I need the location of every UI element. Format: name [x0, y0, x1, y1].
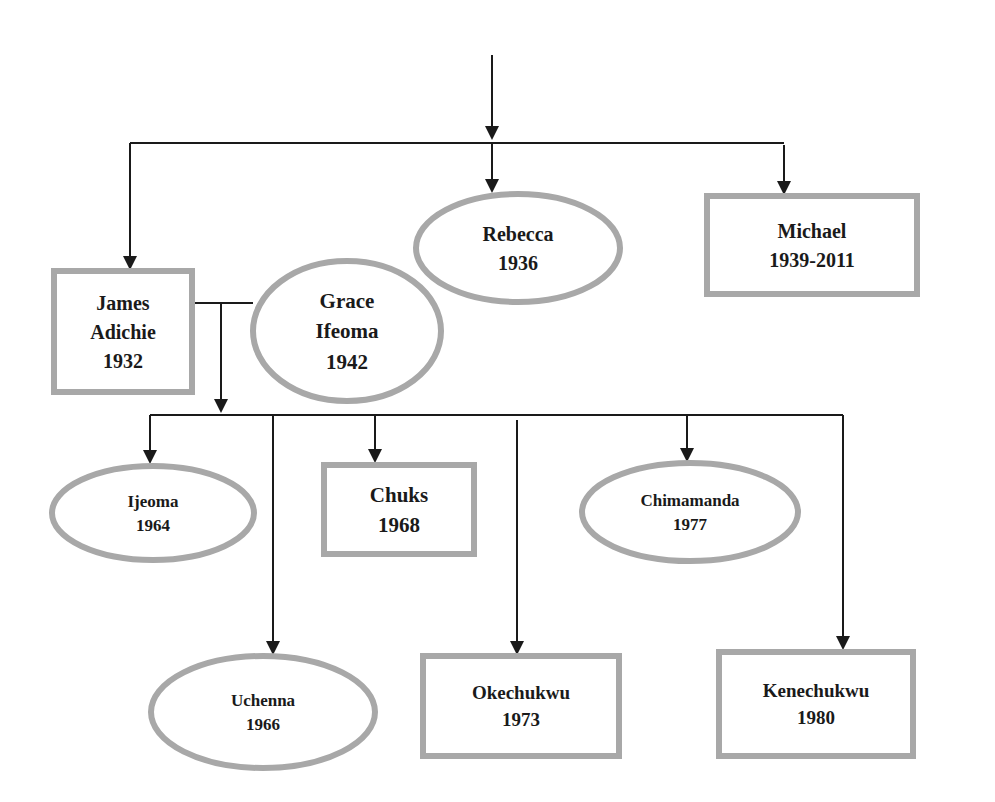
- person-name: James: [96, 292, 150, 314]
- person-name: Chuks: [370, 483, 428, 507]
- arrow-down-icon: [777, 181, 791, 195]
- arrow-down-icon: [485, 179, 499, 193]
- person-year: 1936: [498, 252, 538, 274]
- edge-to-uchenna: [266, 415, 280, 655]
- arrow-down-icon: [680, 448, 694, 462]
- person-year: 1968: [378, 513, 420, 537]
- person-node-rebecca: Rebecca1936: [416, 194, 620, 302]
- connector-lines: [123, 55, 850, 655]
- family-tree-diagram: JamesAdichie1932GraceIfeoma1942Rebecca19…: [0, 0, 995, 802]
- person-name: Ijeoma: [128, 492, 179, 511]
- edge-to-chuks: [368, 415, 382, 463]
- rect-node-shape: [324, 465, 474, 554]
- arrow-down-icon: [123, 256, 137, 270]
- person-name: Okechukwu: [472, 682, 571, 703]
- person-name: Grace: [320, 289, 375, 313]
- person-name: Kenechukwu: [763, 680, 870, 701]
- edge-to-rebecca: [485, 143, 499, 193]
- arrow-down-icon: [485, 126, 499, 140]
- person-nodes: JamesAdichie1932GraceIfeoma1942Rebecca19…: [52, 194, 917, 768]
- edge-root-drop: [485, 55, 499, 140]
- person-node-kenechukwu: Kenechukwu1980: [719, 652, 913, 756]
- person-node-uchenna: Uchenna1966: [151, 656, 375, 768]
- person-node-james: JamesAdichie1932: [54, 271, 192, 392]
- edge-to-okechukwu: [510, 420, 524, 655]
- person-name: Uchenna: [231, 691, 296, 710]
- person-node-chuks: Chuks1968: [324, 465, 474, 554]
- person-node-chimamanda: Chimamanda1977: [582, 463, 798, 561]
- edge-couple-drop: [214, 303, 228, 413]
- rect-node-shape: [423, 656, 619, 756]
- rect-node-shape: [707, 196, 917, 294]
- person-year: 1966: [246, 715, 280, 734]
- arrow-down-icon: [510, 641, 524, 655]
- person-name: Michael: [778, 220, 847, 242]
- person-name: Rebecca: [482, 223, 553, 245]
- ellipse-node-shape: [416, 194, 620, 302]
- edge-to-michael: [777, 145, 791, 195]
- person-year: 1980: [797, 707, 835, 728]
- person-node-ijeoma: Ijeoma1964: [52, 466, 254, 560]
- person-name: Chimamanda: [640, 491, 740, 510]
- person-year: 1964: [136, 516, 171, 535]
- person-node-michael: Michael1939-2011: [707, 196, 917, 294]
- edge-to-kenechukwu: [836, 415, 850, 650]
- ellipse-node-shape: [582, 463, 798, 561]
- edge-to-chimamanda: [680, 415, 694, 462]
- edge-to-ijeoma: [143, 415, 157, 464]
- person-year: 1932: [103, 350, 143, 372]
- arrow-down-icon: [214, 399, 228, 413]
- person-name: Adichie: [90, 321, 156, 343]
- edge-to-james: [123, 143, 137, 270]
- arrow-down-icon: [266, 641, 280, 655]
- person-name: Ifeoma: [316, 319, 379, 343]
- arrow-down-icon: [143, 450, 157, 464]
- person-year: 1973: [502, 709, 540, 730]
- person-node-okechukwu: Okechukwu1973: [423, 656, 619, 756]
- arrow-down-icon: [368, 449, 382, 463]
- person-year: 1939-2011: [769, 249, 855, 271]
- rect-node-shape: [719, 652, 913, 756]
- arrow-down-icon: [836, 636, 850, 650]
- ellipse-node-shape: [52, 466, 254, 560]
- person-year: 1942: [326, 350, 368, 374]
- ellipse-node-shape: [151, 656, 375, 768]
- person-year: 1977: [673, 515, 708, 534]
- person-node-grace: GraceIfeoma1942: [253, 261, 441, 401]
